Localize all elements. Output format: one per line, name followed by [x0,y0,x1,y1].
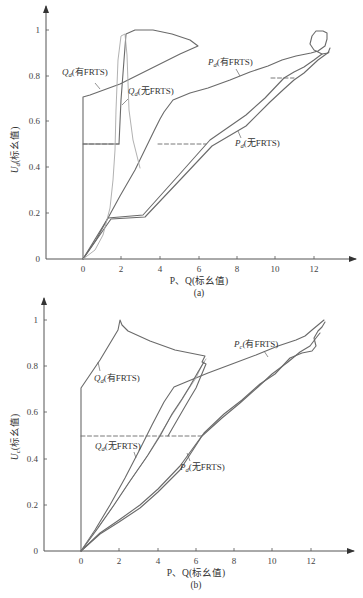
x-tick-label: 6 [194,556,199,566]
annotation-pc-with-frts-b: Pc(有FRTS) [233,338,278,357]
x-axis-title-a: P、Q(标幺值) [170,275,228,287]
x-tick-label: 2 [117,556,122,566]
x-tick-label: 8 [235,264,240,274]
y-tick-label: 0 [36,254,41,264]
chart-b: 1 0.8 0.6 0.4 0.2 0 0 2 4 6 8 10 12 P、Q(… [9,298,354,591]
y-tick-label: 0.8 [27,361,39,371]
y-tick-label: 0 [34,546,39,556]
x-tick-label: 0 [81,264,86,274]
annotation-pd-with-frts-a: Pd(有FRTS) [207,56,253,76]
svg-text:Qd(无FRTS): Qd(无FRTS) [128,86,174,97]
series-qd-with-frts-a [83,30,198,259]
annotation-qd-with-frts-a: Qd(有FRTS) [62,66,108,89]
annotation-qd-with-frts-b: Qd(有FRTS) [94,362,140,384]
chart-a: 1 0.8 0.6 0.4 0.2 0 0 2 4 6 8 10 12 P、Q(… [9,6,356,299]
y-tick-label: 0.6 [29,116,41,126]
y-tick-label: 1 [36,25,41,35]
y-tick-label: 0.6 [27,407,39,417]
caption-b: (b) [190,580,201,591]
figure: 1 0.8 0.6 0.4 0.2 0 0 2 4 6 8 10 12 P、Q(… [0,0,363,598]
x-tick-label: 12 [310,264,319,274]
x-tick-label: 10 [268,556,278,566]
series-qd-with-frts-b [81,320,206,551]
annotation-qd-without-frts-a: Qd(无FRTS) [122,86,174,105]
svg-text:Pc(有FRTS): Pc(有FRTS) [233,338,278,350]
y-axis-title-a: Ud(标幺值) [9,127,22,174]
x-tick-label: 6 [197,264,202,274]
y-tick-label: 1 [34,315,39,325]
x-tick-label: 4 [158,264,163,274]
annotation-pd-without-frts-a: Pd(无FRTS) [234,131,280,149]
y-tick-label: 0.2 [27,500,38,510]
series-pd-without-frts-lower-a [83,52,329,259]
x-axis-title-b: P、Q(标幺值) [167,567,225,579]
y-axis-title-b: Uc(标幺值) [9,414,22,460]
x-tick-label: 10 [271,264,281,274]
y-tick-label: 0.8 [29,71,41,81]
annotation-pd-without-frts-b: Pd(无FRTS) [179,453,225,473]
x-tick-label: 12 [307,556,316,566]
x-tick-label: 4 [156,556,161,566]
svg-text:Qd(无FRTS): Qd(无FRTS) [95,441,141,452]
y-tick-label: 0.2 [29,208,40,218]
svg-text:Pd(有FRTS): Pd(有FRTS) [207,56,253,68]
svg-text:Pd(无FRTS): Pd(无FRTS) [179,462,225,473]
svg-text:Qd(有FRTS): Qd(有FRTS) [62,66,108,78]
x-tick-label: 2 [119,264,124,274]
x-tick-label: 0 [79,556,84,566]
x-tick-label: 8 [232,556,237,566]
y-tick-label: 0.4 [27,454,39,464]
y-tick-label: 0.4 [29,162,41,172]
caption-a: (a) [194,288,205,299]
svg-text:Qd(有FRTS): Qd(有FRTS) [94,372,140,384]
series-pd-with-frts-a [83,31,330,259]
svg-text:Pd(无FRTS): Pd(无FRTS) [234,138,280,149]
annotation-qd-without-frts-b: Qd(无FRTS) [95,441,141,458]
series-pd-without-frts-upper-b [81,322,325,551]
dashed-reference-a [83,78,294,144]
